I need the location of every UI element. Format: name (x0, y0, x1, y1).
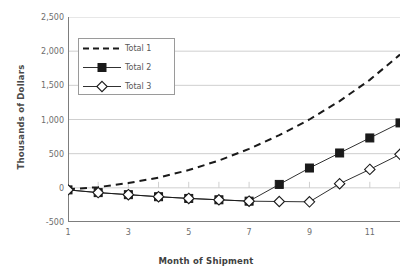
y-tick-label-1000: 1,000 (20, 115, 64, 124)
data-point-3-8 (274, 196, 284, 206)
data-point-2-10 (336, 149, 344, 157)
data-point-3-11 (365, 164, 375, 174)
y-tick-label-1500: 1,500 (20, 81, 64, 90)
x-axis-title: Month of Shipment (0, 256, 412, 266)
y-tick-label-2500: 2,500 (20, 13, 64, 22)
data-point-2-12 (396, 119, 400, 127)
legend-swatch-none-icon (79, 39, 125, 58)
data-point-2-9 (305, 164, 313, 172)
x-tick-label-3: 3 (126, 228, 131, 237)
y-tick-label-2000: 2,000 (20, 47, 64, 56)
y-tick-label--500: -500 (20, 218, 64, 227)
chart-container: Thousands of Dollars 2,5002,0001,5001,00… (0, 0, 412, 280)
y-tick-label-0: 0 (20, 183, 64, 192)
x-tick-label-1: 1 (65, 228, 70, 237)
x-tick-label-5: 5 (186, 228, 191, 237)
data-point-3-9 (304, 197, 314, 207)
series-line-2 (68, 123, 400, 201)
x-tick-label-7: 7 (247, 228, 252, 237)
y-axis-tick-labels: 2,5002,0001,5001,0005000-500 (18, 17, 64, 222)
legend-swatch-filled-square-icon (79, 58, 125, 77)
legend-item-1[interactable]: Total 1 (79, 39, 174, 58)
data-point-3-12 (395, 149, 400, 159)
data-point-3-10 (334, 179, 344, 189)
x-tick-label-11: 11 (365, 228, 375, 237)
series-line-3 (68, 154, 400, 201)
legend-label-2: Total 2 (125, 63, 151, 72)
data-point-2-8 (275, 180, 283, 188)
y-tick-label-500: 500 (20, 149, 64, 158)
legend-label-1: Total 1 (125, 44, 151, 53)
chart-legend: Total 1Total 2Total 3 (78, 38, 175, 95)
legend-swatch-open-diamond-icon (79, 77, 125, 96)
legend-item-2[interactable]: Total 2 (79, 58, 174, 77)
legend-item-3[interactable]: Total 3 (79, 77, 174, 96)
legend-label-3: Total 3 (125, 82, 151, 91)
x-axis-tick-labels: 1357911 (68, 228, 400, 242)
x-tick-label-9: 9 (307, 228, 312, 237)
data-point-2-11 (366, 134, 374, 142)
